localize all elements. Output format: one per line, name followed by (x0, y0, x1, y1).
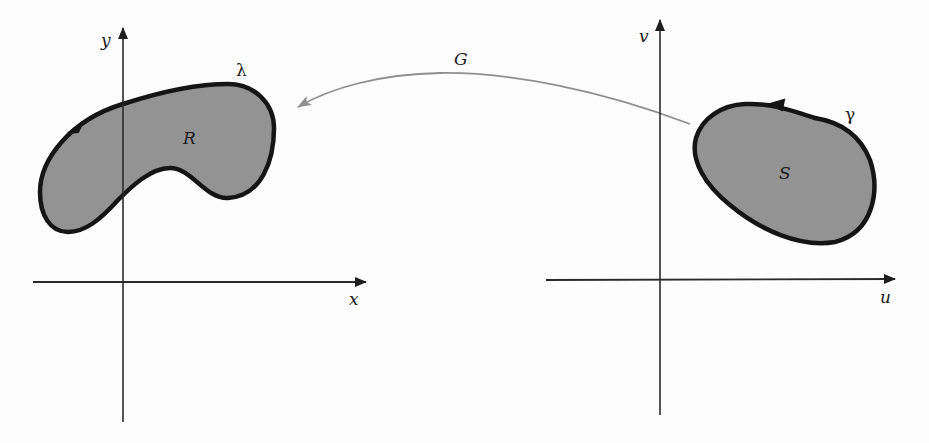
mapping-g: G (298, 49, 690, 124)
mapping-label: G (454, 49, 468, 69)
v-axis-label: v (639, 26, 649, 46)
x-axis-label: x (349, 289, 359, 309)
lambda-label: λ (236, 60, 247, 80)
u-axis (546, 279, 895, 280)
region-r (40, 84, 274, 232)
mapping-arrow (298, 73, 690, 124)
region-r-label: R (182, 128, 196, 148)
change-of-variables-diagram: x y R λ G u v S γ (0, 0, 929, 443)
y-axis-label: y (100, 30, 111, 50)
gamma-label: γ (845, 104, 855, 124)
region-s-label: S (779, 163, 791, 183)
u-axis-label: u (880, 287, 891, 307)
uv-plane: u v S γ (546, 20, 895, 415)
xy-plane: x y R λ (33, 28, 366, 422)
